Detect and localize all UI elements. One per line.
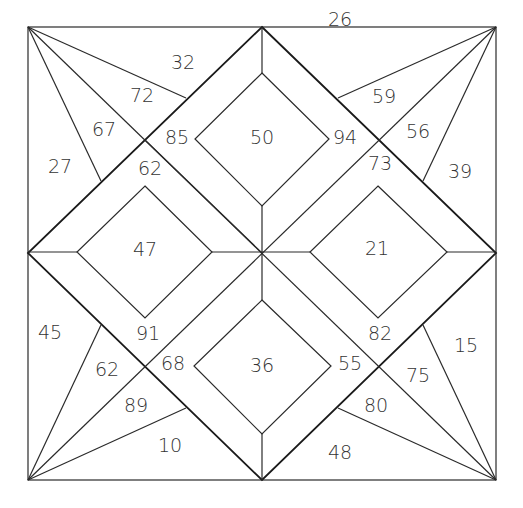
label-band-br-upper: 82 <box>368 322 392 344</box>
label-tr-fan-1: 59 <box>372 85 396 107</box>
diagram-canvas: 26 32 72 67 27 85 62 50 94 73 59 56 39 4… <box>0 0 523 508</box>
label-br-fan-2: 80 <box>364 394 388 416</box>
label-tr-fan-2: 56 <box>406 120 430 142</box>
label-top-left-outer: 32 <box>171 51 195 73</box>
label-bl-outer: 10 <box>158 434 182 456</box>
label-br-fan-1: 75 <box>406 364 430 386</box>
label-band-bl-lower: 68 <box>161 352 185 374</box>
label-bottom-outer: 48 <box>328 441 352 463</box>
label-band-bl-upper: 91 <box>136 322 160 344</box>
fan-tl-1 <box>28 27 186 98</box>
label-top-left-fan-2: 67 <box>92 118 116 140</box>
label-band-tl-lower: 62 <box>138 157 162 179</box>
label-right-bottom-outer: 15 <box>454 334 478 356</box>
fan-tr-2 <box>423 27 496 181</box>
label-top-left-fan-1: 72 <box>130 84 154 106</box>
label-band-tr-lower: 73 <box>368 152 392 174</box>
label-bl-fan-2: 89 <box>124 394 148 416</box>
label-left-bottom-outer: 45 <box>38 321 62 343</box>
label-top-diamond: 50 <box>250 126 274 148</box>
label-left-diamond: 47 <box>133 238 157 260</box>
fan-bl-1 <box>28 325 101 480</box>
fan-br-2 <box>338 408 496 480</box>
label-bl-fan-1: 62 <box>95 358 119 380</box>
label-band-tl-upper: 85 <box>165 126 189 148</box>
label-band-br-lower: 55 <box>338 352 362 374</box>
label-bottom-diamond: 36 <box>250 354 274 376</box>
label-band-tr-upper: 94 <box>333 126 357 148</box>
band-line-tl <box>145 140 262 253</box>
label-right-top-outer: 39 <box>448 160 472 182</box>
fan-tr-1 <box>338 27 496 98</box>
label-left-top-outer: 27 <box>48 155 72 177</box>
label-top-outer: 26 <box>328 8 352 30</box>
puzzle-diagram: 26 32 72 67 27 85 62 50 94 73 59 56 39 4… <box>0 0 523 508</box>
label-right-diamond: 21 <box>365 237 389 259</box>
